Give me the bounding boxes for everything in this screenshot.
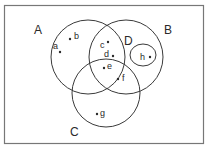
element-g-dot [96, 113, 98, 115]
element-d-label: d [104, 49, 109, 59]
set-b-label: B [164, 23, 172, 37]
set-a-circle [51, 20, 125, 94]
element-e-dot [103, 67, 105, 69]
set-c-label: C [70, 125, 79, 139]
set-d-label: D [124, 34, 133, 48]
set-a-label: A [34, 23, 42, 37]
set-b-circle [89, 20, 163, 94]
element-d-dot [112, 55, 114, 57]
element-f-label: f [122, 73, 125, 83]
venn-svg: A B C D a b c d e f g h [0, 0, 208, 154]
element-a-dot [59, 51, 61, 53]
element-h-dot [149, 56, 151, 58]
set-c-circle [72, 59, 140, 127]
element-b-dot [69, 38, 71, 40]
element-g-label: g [100, 108, 105, 118]
element-c-dot [107, 41, 109, 43]
element-e-label: e [107, 61, 112, 71]
venn-diagram: A B C D a b c d e f g h [0, 0, 208, 154]
element-h-label: h [140, 52, 145, 62]
element-f-dot [117, 78, 119, 80]
element-a-label: a [53, 41, 58, 51]
element-b-label: b [74, 31, 79, 41]
